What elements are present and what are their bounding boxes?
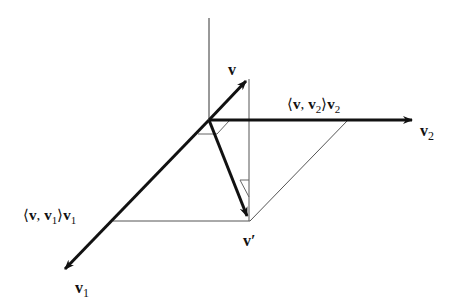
label-proj-v2: ⟨v,v2⟩v2 [287,96,340,115]
v-prime-vector [209,120,247,216]
v1-vector [65,120,209,269]
proj2-line [250,120,348,221]
v-vector [209,81,246,120]
projection-diagram: v v2 v1 v′ ⟨v,v2⟩v2 ⟨v,v1⟩v1 [0,0,463,305]
label-v: v [228,61,236,78]
right-angle-mark-vprime [240,180,249,197]
label-proj-v1: ⟨v,v1⟩v1 [23,207,76,226]
label-v2: v2 [420,122,434,143]
label-v1: v1 [75,279,89,300]
label-v-prime: v′ [243,232,256,249]
